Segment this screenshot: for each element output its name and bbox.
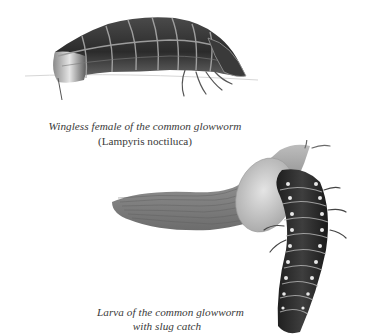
female-glowworm-illustration — [0, 0, 260, 110]
larva-caption-line2: with slug catch — [97, 320, 237, 332]
female-caption-line1: Wingless female of the common glowworm — [0, 120, 290, 132]
larva-caption-line1: Larva of the common glowworm — [97, 306, 237, 318]
